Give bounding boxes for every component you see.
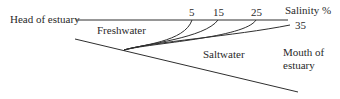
isohaline-15-label: 15 (213, 6, 225, 18)
mouth-label-line1: Mouth of (283, 46, 325, 58)
seabed-line (75, 39, 298, 92)
isohaline-25-label: 25 (251, 6, 263, 18)
head-of-estuary-label: Head of estuary (10, 13, 80, 25)
salinity-label: Salinity % (285, 4, 331, 16)
freshwater-label: Freshwater (97, 24, 146, 36)
mouth-label-line2: estuary (283, 59, 315, 71)
isohaline-5-label: 5 (189, 6, 195, 18)
isohaline-35-label: 35 (295, 19, 307, 31)
saltwater-label: Saltwater (203, 48, 245, 60)
estuary-diagram: Head of estuary Freshwater Saltwater Sal… (0, 0, 340, 99)
